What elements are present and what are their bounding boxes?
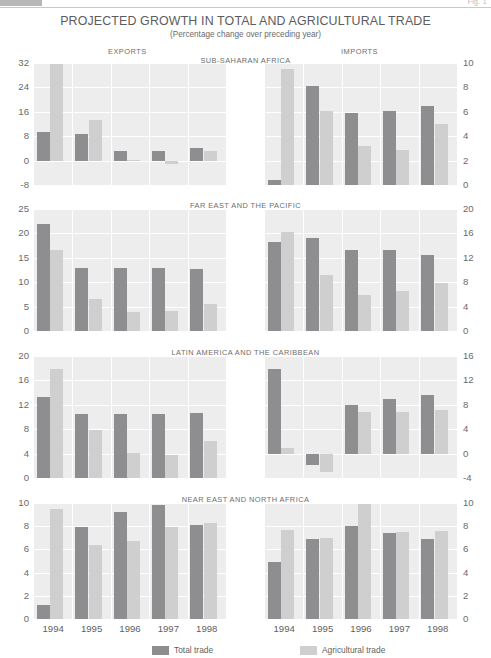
bar-total-trade-1995 — [306, 539, 319, 619]
legend-item-total-trade: Total trade — [152, 645, 213, 655]
bar-agricultural-trade-1994 — [50, 369, 63, 478]
bar-total-trade-1996 — [345, 250, 358, 331]
bar-total-trade-1995 — [75, 527, 88, 619]
bar-total-trade-1995 — [75, 414, 88, 478]
bar-total-trade-1996 — [345, 405, 358, 454]
bar-total-trade-1997 — [383, 250, 396, 331]
bar-agricultural-trade-1997 — [165, 311, 178, 331]
bar-agricultural-trade-1997 — [165, 527, 178, 619]
x-group-divider — [380, 503, 381, 619]
bar-agricultural-trade-1995 — [320, 275, 333, 331]
bar-agricultural-trade-1994 — [281, 448, 294, 454]
bar-agricultural-trade-1995 — [320, 538, 333, 619]
bar-agricultural-trade-1998 — [435, 410, 448, 453]
bar-agricultural-trade-1998 — [204, 151, 217, 161]
x-axis-tick-label-1998: 1998 — [419, 623, 457, 634]
bar-agricultural-trade-1994 — [281, 69, 294, 185]
bar-total-trade-1997 — [152, 151, 165, 160]
bar-total-trade-1994 — [37, 132, 50, 160]
bar-agricultural-trade-1997 — [165, 455, 178, 478]
bar-total-trade-1997 — [383, 111, 396, 185]
bar-agricultural-trade-1995 — [89, 430, 102, 478]
bar-agricultural-trade-1998 — [204, 304, 217, 331]
bar-agricultural-trade-1997 — [165, 161, 178, 165]
bar-agricultural-trade-1998 — [204, 441, 217, 478]
legend-swatch-agricultural-trade — [300, 646, 317, 655]
bar-total-trade-1998 — [421, 395, 434, 454]
page-corner-swatch — [0, 0, 42, 6]
bar-agricultural-trade-1998 — [435, 283, 448, 331]
bar-agricultural-trade-1997 — [396, 412, 409, 454]
legend-label-agricultural-trade: Agricultural trade — [322, 645, 385, 655]
bar-total-trade-1997 — [152, 414, 165, 478]
bar-total-trade-1996 — [345, 526, 358, 619]
bar-total-trade-1997 — [383, 399, 396, 454]
bar-total-trade-1995 — [75, 268, 88, 331]
bar-total-trade-1995 — [75, 134, 88, 161]
bar-agricultural-trade-1994 — [281, 530, 294, 619]
bar-agricultural-trade-1998 — [204, 523, 217, 619]
bar-total-trade-1998 — [421, 539, 434, 619]
bar-agricultural-trade-1995 — [320, 454, 333, 472]
bar-total-trade-1998 — [190, 269, 203, 331]
bar-agricultural-trade-1995 — [89, 299, 102, 331]
page-top-rule: Fig. 1 — [0, 0, 491, 9]
bar-total-trade-1998 — [190, 148, 203, 161]
bar-total-trade-1995 — [306, 238, 319, 331]
bar-total-trade-1994 — [37, 224, 50, 331]
x-axis-tick-label-1996: 1996 — [342, 623, 380, 634]
bar-total-trade-1994 — [268, 369, 281, 453]
bar-total-trade-1997 — [152, 505, 165, 619]
y-axis-tick-label: 2 — [463, 591, 490, 601]
legend-swatch-total-trade — [152, 646, 169, 655]
bar-agricultural-trade-1996 — [358, 146, 371, 185]
bar-total-trade-1997 — [383, 533, 396, 619]
figure-label: Fig. 1 — [468, 0, 487, 5]
bar-total-trade-1998 — [190, 525, 203, 619]
bar-total-trade-1995 — [306, 454, 319, 465]
legend-label-total-trade: Total trade — [174, 645, 213, 655]
bar-agricultural-trade-1995 — [89, 120, 102, 160]
bar-total-trade-1994 — [37, 397, 50, 478]
bar-agricultural-trade-1997 — [396, 150, 409, 185]
y-axis-tick-label: 8 — [463, 521, 490, 531]
horizontal-rule — [0, 7, 491, 8]
bar-agricultural-trade-1997 — [396, 291, 409, 331]
plot-area — [265, 503, 457, 619]
bar-agricultural-trade-1995 — [89, 545, 102, 619]
bar-total-trade-1996 — [114, 414, 127, 478]
bar-total-trade-1994 — [37, 605, 50, 619]
bar-total-trade-1994 — [268, 180, 281, 185]
bar-total-trade-1998 — [190, 413, 203, 478]
bar-total-trade-1996 — [345, 113, 358, 185]
bar-agricultural-trade-1997 — [396, 532, 409, 619]
bar-agricultural-trade-1996 — [127, 453, 140, 478]
bar-total-trade-1995 — [306, 86, 319, 185]
y-axis-tick-label: 10 — [463, 498, 490, 508]
chart-legend: Total trade Agricultural trade — [0, 643, 491, 658]
bar-agricultural-trade-1996 — [358, 295, 371, 331]
bar-agricultural-trade-1996 — [127, 160, 140, 161]
bar-total-trade-1997 — [152, 268, 165, 331]
bar-total-trade-1998 — [421, 106, 434, 185]
bar-agricultural-trade-1995 — [320, 111, 333, 185]
y-axis-tick-label: 4 — [463, 568, 490, 578]
x-group-divider — [303, 503, 304, 619]
bar-total-trade-1996 — [114, 512, 127, 619]
bar-total-trade-1996 — [114, 151, 127, 161]
x-group-divider — [342, 503, 343, 619]
figure-sheet: PROJECTED GROWTH IN TOTAL AND AGRICULTUR… — [0, 9, 491, 658]
legend-item-agricultural-trade: Agricultural trade — [300, 645, 385, 655]
bar-agricultural-trade-1994 — [50, 509, 63, 619]
bar-total-trade-1994 — [268, 242, 281, 331]
y-axis-tick-label: 6 — [463, 544, 490, 554]
bar-agricultural-trade-1994 — [50, 250, 63, 331]
bar-agricultural-trade-1996 — [358, 412, 371, 453]
bar-total-trade-1996 — [114, 268, 127, 331]
bar-agricultural-trade-1998 — [435, 531, 448, 619]
bar-total-trade-1998 — [421, 255, 434, 331]
x-axis-tick-label-1997: 1997 — [380, 623, 418, 634]
bar-agricultural-trade-1994 — [50, 64, 63, 160]
y-axis-tick-label: 0 — [463, 614, 490, 624]
chart-panel-near-east-and-north-africa-imports: 024681019941995199619971998 — [0, 9, 491, 658]
